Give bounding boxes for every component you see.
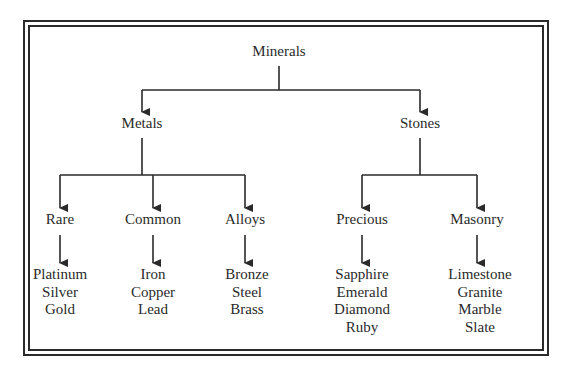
node-common: Common <box>125 211 181 229</box>
leaf-item: Bronze <box>225 266 268 284</box>
leaf-item: Limestone <box>448 266 511 284</box>
node-alloys: Alloys <box>225 211 265 229</box>
leaf-item: Brass <box>225 301 268 319</box>
node-precious: Precious <box>336 211 388 229</box>
leaf-list-rare: Platinum Silver Gold <box>33 266 87 319</box>
leaf-item: Sapphire <box>334 266 390 284</box>
leaf-item: Slate <box>448 319 511 337</box>
leaf-item: Lead <box>131 301 175 319</box>
node-rare: Rare <box>46 211 74 229</box>
leaf-item: Marble <box>448 301 511 319</box>
leaf-item: Granite <box>448 284 511 302</box>
leaf-item: Diamond <box>334 301 390 319</box>
leaf-list-alloys: Bronze Steel Brass <box>225 266 268 319</box>
node-metals: Metals <box>122 115 163 133</box>
leaf-item: Iron <box>131 266 175 284</box>
node-stones: Stones <box>400 115 440 133</box>
leaf-item: Platinum <box>33 266 87 284</box>
node-masonry: Masonry <box>450 211 503 229</box>
leaf-item: Ruby <box>334 319 390 337</box>
leaf-item: Silver <box>33 284 87 302</box>
leaf-item: Copper <box>131 284 175 302</box>
leaf-item: Emerald <box>334 284 390 302</box>
node-minerals: Minerals <box>252 43 305 61</box>
leaf-item: Gold <box>33 301 87 319</box>
leaf-item: Steel <box>225 284 268 302</box>
leaf-list-common: Iron Copper Lead <box>131 266 175 319</box>
leaf-list-precious: Sapphire Emerald Diamond Ruby <box>334 266 390 336</box>
leaf-list-masonry: Limestone Granite Marble Slate <box>448 266 511 336</box>
